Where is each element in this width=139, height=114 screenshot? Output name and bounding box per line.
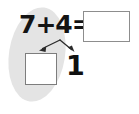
ones-place-digit: 1 bbox=[66, 52, 82, 80]
equation-text: 7+4= bbox=[19, 11, 92, 38]
worksheet-canvas: 7+4= 1 bbox=[0, 0, 139, 114]
answer-box[interactable] bbox=[83, 11, 130, 42]
arrow-to-tens-box-icon bbox=[39, 40, 60, 52]
tens-place-box[interactable] bbox=[25, 53, 57, 85]
